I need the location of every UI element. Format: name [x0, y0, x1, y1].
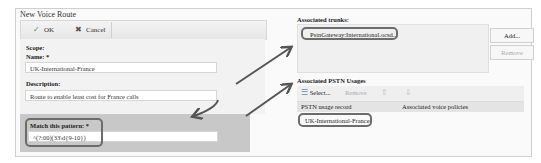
annotation-arrows [0, 0, 541, 163]
